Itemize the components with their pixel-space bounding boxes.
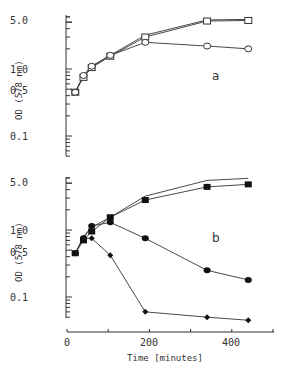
filled-square-marker <box>142 197 149 203</box>
filled-square-marker <box>88 228 95 234</box>
open-circle-marker <box>80 72 87 78</box>
panel-b-label: b <box>212 231 220 245</box>
panel-a-y-label: OD (578 nm) <box>14 60 24 120</box>
series-line <box>75 42 248 92</box>
series-line <box>75 222 248 280</box>
open-circle-marker <box>245 46 252 52</box>
open-circle-marker <box>142 39 149 45</box>
panel-a-ytick-5: 5.0 <box>10 15 28 26</box>
panel-a-series <box>72 17 252 95</box>
open-circle-marker <box>204 43 211 49</box>
filled-diamond-marker <box>245 317 251 323</box>
filled-circle-marker <box>107 219 114 225</box>
xtick-200: 200 <box>140 337 158 348</box>
panel-b-y-ticks <box>66 178 72 317</box>
xtick-0: 0 <box>64 337 70 348</box>
x-axis-label: Time [minutes] <box>127 353 203 363</box>
series-line <box>75 178 248 253</box>
open-circle-marker <box>107 52 114 58</box>
panel-a-y-ticks <box>66 17 72 156</box>
series-line <box>75 184 248 253</box>
panel-a: 5.0 1.0 0.5 0.1 OD (578 nm) a <box>10 15 252 156</box>
panel-a-label: a <box>212 69 219 83</box>
filled-diamond-marker <box>142 309 148 315</box>
panel-b-ytick-0-1: 0.1 <box>10 292 28 303</box>
filled-circle-marker <box>142 235 149 241</box>
filled-circle-marker <box>245 277 252 283</box>
xtick-400: 400 <box>222 337 240 348</box>
open-circle-marker <box>72 89 79 95</box>
panel-b-series <box>72 178 252 323</box>
series-line <box>83 238 248 320</box>
panel-b-y-label: OD (578 nm) <box>14 222 24 282</box>
filled-square-marker <box>245 181 252 187</box>
filled-square-marker <box>204 184 211 190</box>
filled-square-marker <box>107 214 114 220</box>
filled-circle-marker <box>72 250 79 256</box>
filled-circle-marker <box>88 223 95 229</box>
filled-circle-marker <box>204 267 211 273</box>
panel-a-ytick-0-1: 0.1 <box>10 131 28 142</box>
panel-b-ytick-5: 5.0 <box>10 177 28 188</box>
panel-b: 5.0 1.0 0.5 0.1 OD (578 nm) b 0 200 400 … <box>10 177 274 363</box>
open-circle-marker <box>88 63 95 69</box>
filled-diamond-marker <box>204 314 210 320</box>
series-line <box>75 19 248 92</box>
open-square-marker <box>204 18 211 24</box>
growth-curves-figure: 5.0 1.0 0.5 0.1 OD (578 nm) a 5.0 1.0 0.… <box>0 0 283 376</box>
open-square-marker <box>245 17 252 23</box>
